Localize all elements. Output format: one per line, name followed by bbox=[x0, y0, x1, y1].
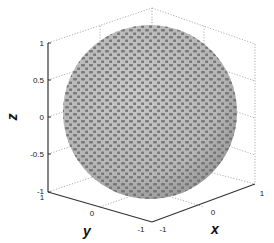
x-axis-label: x bbox=[210, 221, 220, 237]
x-tick-0: 0 bbox=[211, 208, 216, 217]
sphere-points bbox=[60, 22, 240, 202]
x-tick-1: 1 bbox=[260, 189, 265, 198]
z-tick-1: 1 bbox=[40, 39, 45, 48]
y-axis-label: y bbox=[82, 223, 92, 239]
x-tick-neg1: -1 bbox=[159, 225, 167, 234]
y-tick-0: 0 bbox=[90, 209, 95, 218]
z-tick-neg0.5: -0.5 bbox=[30, 150, 44, 159]
y-tick-1: 1 bbox=[40, 193, 45, 202]
sphere-3d-plot: 1 0.5 0 -0.5 -1 1 0 -1 -1 0 1 z y x bbox=[0, 0, 274, 243]
z-axis-label: z bbox=[4, 114, 20, 122]
y-tick-neg1: -1 bbox=[137, 225, 145, 234]
z-tick-0: 0 bbox=[40, 113, 45, 122]
z-tick-0.5: 0.5 bbox=[33, 76, 45, 85]
